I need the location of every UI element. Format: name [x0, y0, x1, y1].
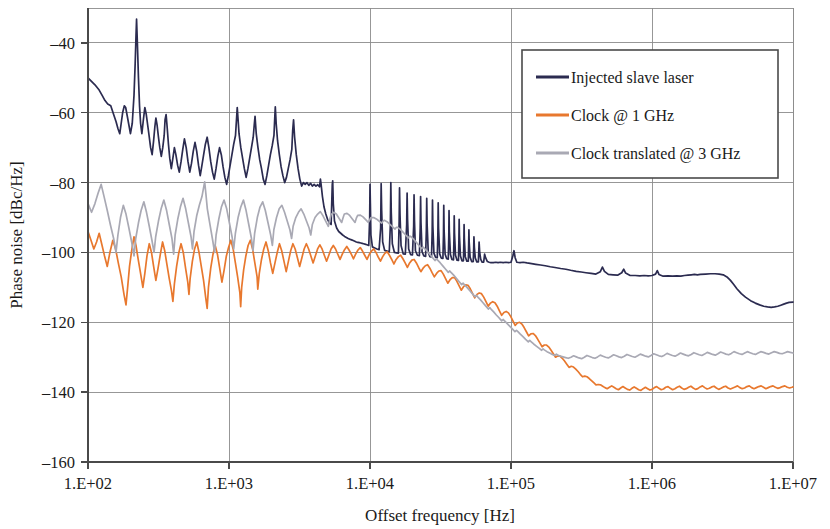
x-axis-title: Offset frequency [Hz] [365, 506, 515, 525]
legend-label-2: Clock translated @ 3 GHz [571, 145, 740, 163]
phase-noise-plot: –40–60–80–100–120–140–1601.E+021.E+031.E… [0, 0, 830, 529]
y-tick-label: –40 [49, 34, 75, 53]
x-tick-label: 1.E+02 [64, 474, 112, 493]
y-tick-label: –60 [49, 104, 75, 123]
y-tick-label: –140 [41, 383, 75, 402]
y-tick-label: –100 [41, 243, 75, 262]
y-axis-title: Phase noise [dBc/Hz] [7, 161, 26, 308]
x-tick-label: 1.E+06 [628, 474, 676, 493]
phase-noise-chart-figure: –40–60–80–100–120–140–1601.E+021.E+031.E… [0, 0, 830, 529]
x-tick-label: 1.E+03 [205, 474, 253, 493]
legend-label-0: Injected slave laser [571, 69, 694, 87]
y-tick-label: –160 [41, 453, 75, 472]
y-tick-label: –80 [49, 174, 75, 193]
x-tick-label: 1.E+05 [487, 474, 535, 493]
legend-group: Injected slave laserClock @ 1 GHzClock t… [522, 50, 778, 178]
y-tick-label: –120 [41, 313, 75, 332]
x-tick-label: 1.E+04 [346, 474, 394, 493]
legend-label-1: Clock @ 1 GHz [571, 107, 674, 125]
x-tick-label: 1.E+07 [769, 474, 817, 493]
